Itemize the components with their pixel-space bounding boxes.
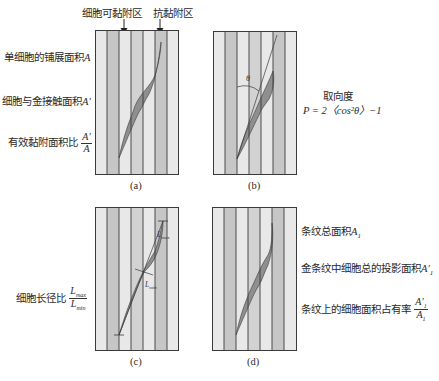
occupancy-fraction: A′1 A1 bbox=[414, 297, 427, 323]
panel-a-stripe-diagram bbox=[95, 30, 179, 175]
occupancy-ratio-label: 条纹上的细胞面积占有率 A′1 A1 bbox=[301, 297, 428, 323]
contact-area-label: 细胞与金接触面积A′ bbox=[2, 96, 91, 108]
projected-area-label: 金条纹中细胞总的投影面积A′1 bbox=[301, 263, 433, 277]
aspect-ratio-fraction: Lmax Lmin bbox=[69, 286, 87, 312]
panel-a-caption: (a) bbox=[130, 180, 142, 191]
spread-area-label: 单细胞的铺展面积A bbox=[4, 52, 90, 64]
panel-b-caption: (b) bbox=[248, 180, 260, 191]
anti-adhesive-zone-label: 抗黏附区 bbox=[153, 8, 193, 19]
panel-d-caption: (d) bbox=[247, 356, 259, 367]
panel-c-caption: (c) bbox=[130, 356, 142, 367]
panel-b-stripe-diagram: θ bbox=[213, 31, 297, 175]
adhesive-zone-label: 细胞可黏附区 bbox=[82, 8, 142, 19]
stripe-total-area-label: 条纹总面积A1 bbox=[301, 226, 361, 240]
aspect-ratio-label: 细胞长径比 Lmax Lmin bbox=[16, 286, 87, 312]
panel-d-stripe-diagram bbox=[212, 207, 297, 351]
ratio-fraction: A′ A bbox=[81, 132, 91, 154]
effective-adhesion-ratio-label: 有效黏附面积比 A′ A bbox=[8, 132, 92, 154]
orientation-title: 取向度 bbox=[323, 91, 353, 102]
panel-c-stripe-diagram: Lmax Lmin bbox=[95, 207, 179, 351]
orientation-formula: P = 2〈cos²θ〉−1 bbox=[303, 106, 381, 117]
